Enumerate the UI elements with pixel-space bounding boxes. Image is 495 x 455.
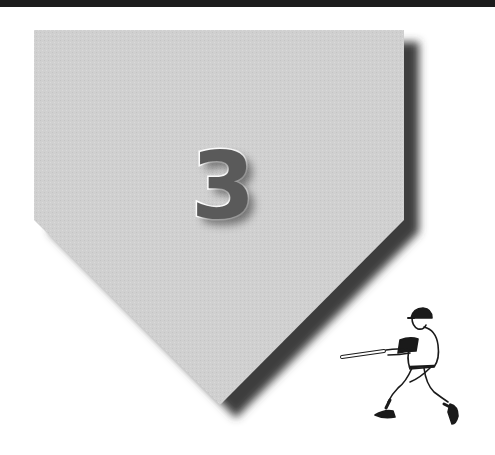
chapter-number: 3 [168,136,278,236]
batter-icon [342,308,458,424]
